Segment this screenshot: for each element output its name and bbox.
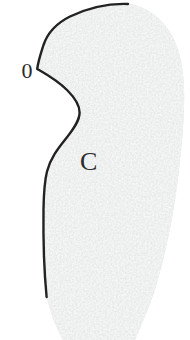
- origin-label: 0: [22, 58, 33, 83]
- figure-container: 0 C: [0, 0, 190, 340]
- figure-canvas: 0 C: [0, 0, 190, 340]
- curve-label: C: [80, 147, 97, 176]
